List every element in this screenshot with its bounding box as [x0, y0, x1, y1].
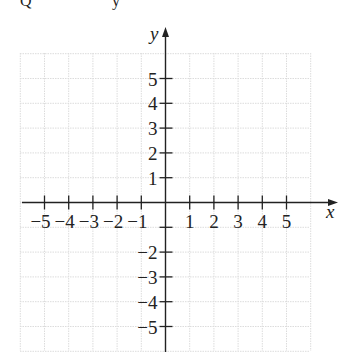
y-tick-label: −4 [137, 292, 158, 313]
x-tick-label: −3 [79, 211, 99, 232]
y-tick-label: −5 [137, 317, 157, 338]
y-tick-label: −2 [137, 242, 157, 263]
x-tick-label: 1 [185, 211, 195, 232]
y-tick-label: −3 [137, 267, 157, 288]
x-tick-label: −4 [55, 211, 76, 232]
y-tick-label: 5 [148, 69, 158, 90]
y-tick-label: 3 [148, 118, 158, 139]
x-tick-label: 4 [258, 211, 268, 232]
x-tick-label: 3 [233, 211, 243, 232]
x-tick-label: −5 [30, 211, 50, 232]
x-axis-label: x [325, 201, 335, 222]
y-axis-arrow-icon [162, 27, 169, 37]
x-tick-label: −1 [127, 211, 147, 232]
y-axis-label: y [148, 23, 159, 44]
coordinate-plane: −5−4−3−2−11234554321−2−3−4−5 x y [0, 0, 348, 359]
y-tick-label: 1 [148, 168, 158, 189]
y-tick-label: 2 [148, 143, 158, 164]
x-tick-label: 5 [282, 211, 292, 232]
x-tick-label: −2 [103, 211, 123, 232]
y-tick-label: 4 [148, 93, 158, 114]
x-tick-label: 2 [209, 211, 219, 232]
